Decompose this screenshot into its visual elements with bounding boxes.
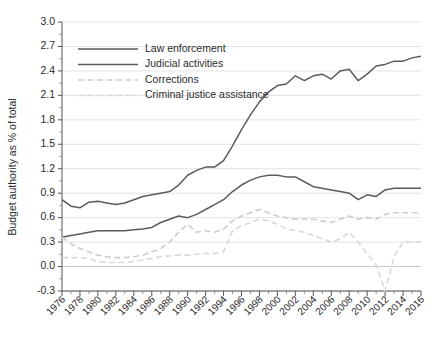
x-axis-tick-label: 1998 (241, 293, 265, 317)
y-axis-tick-label: 0.6 (40, 210, 55, 222)
x-axis-tick-label: 2004 (295, 293, 319, 317)
x-axis-tick-label: 1988 (152, 293, 176, 317)
gridlines-group (62, 22, 421, 291)
y-axis-title: Budget authority as % of total (6, 98, 18, 235)
legend-label: Criminal justice assistance (145, 88, 269, 100)
y-axis-title-group: Budget authority as % of total (6, 98, 18, 235)
legend-label: Law enforcement (145, 42, 226, 54)
series-line-corrections (62, 209, 421, 257)
chart-container: -0.30.00.30.60.91.21.51.82.12.42.73.0 19… (0, 0, 439, 346)
x-axis-tick-label: 1990 (170, 293, 194, 317)
x-axis-tick-label: 1976 (44, 293, 68, 317)
legend-label: Corrections (145, 73, 199, 85)
x-axis-tick-label: 1992 (188, 293, 212, 317)
line-chart: -0.30.00.30.60.91.21.51.82.12.42.73.0 19… (0, 0, 439, 346)
x-axis-tick-label: 1984 (116, 293, 140, 317)
y-axis-group: -0.30.00.30.60.91.21.51.82.12.42.73.0 (37, 15, 62, 296)
x-axis-tick-label: 2014 (385, 293, 409, 317)
x-axis-tick-label: 1980 (80, 293, 104, 317)
y-axis-tick-label: 0.0 (40, 259, 55, 271)
x-axis-tick-label: 2016 (403, 293, 427, 317)
x-axis-tick-label: 1986 (134, 293, 158, 317)
x-axis-tick-label: 1982 (98, 293, 122, 317)
x-axis-tick-label: 1994 (205, 293, 229, 317)
y-axis-tick-label: -0.3 (37, 284, 55, 296)
x-axis-tick-label: 2012 (367, 293, 391, 317)
x-axis-tick-label: 1978 (62, 293, 86, 317)
y-axis-tick-label: 2.1 (40, 88, 55, 100)
y-axis-tick-label: 3.0 (40, 15, 55, 27)
y-axis-tick-label: 2.7 (40, 39, 55, 51)
y-axis-tick-label: 0.9 (40, 186, 55, 198)
y-axis-tick-label: 1.8 (40, 113, 55, 125)
x-axis-tick-label: 2002 (277, 293, 301, 317)
x-axis-tick-label: 2000 (259, 293, 283, 317)
x-axis-group: 1976197819801982198419861988199019921994… (44, 291, 427, 317)
x-axis-tick-label: 1996 (223, 293, 247, 317)
x-axis-tick-label: 2008 (331, 293, 355, 317)
x-axis-tick-label: 2006 (313, 293, 337, 317)
y-axis-tick-label: 2.4 (40, 64, 55, 76)
legend-label: Judicial activities (145, 57, 223, 69)
series-line-judicial-activities (62, 175, 421, 237)
y-axis-tick-label: 1.2 (40, 162, 55, 174)
y-axis-tick-label: 1.5 (40, 137, 55, 149)
y-axis-tick-label: 0.3 (40, 235, 55, 247)
x-axis-tick-label: 2010 (349, 293, 373, 317)
